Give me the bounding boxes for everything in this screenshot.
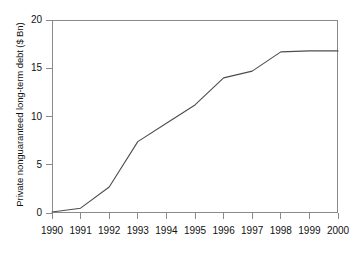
y-tick-mark	[46, 20, 52, 21]
x-tick-mark	[80, 213, 81, 219]
x-tick-mark	[223, 213, 224, 219]
x-tick-label: 2000	[315, 225, 361, 236]
x-tick-mark	[137, 213, 138, 219]
y-tick-label: 10	[0, 112, 42, 122]
x-tick-mark	[280, 213, 281, 219]
x-tick-mark	[309, 213, 310, 219]
y-tick-label: 20	[0, 15, 42, 25]
x-tick-mark	[166, 213, 167, 219]
x-tick-mark	[52, 213, 53, 219]
y-tick-label: 5	[0, 160, 42, 170]
plot-area	[52, 20, 338, 213]
x-tick-mark	[252, 213, 253, 219]
y-tick-mark	[46, 164, 52, 165]
y-tick-mark	[46, 68, 52, 69]
x-tick-mark	[195, 213, 196, 219]
x-tick-mark	[338, 213, 339, 219]
y-tick-label: 15	[0, 63, 42, 73]
x-tick-mark	[109, 213, 110, 219]
y-tick-label: 0	[0, 208, 42, 218]
chart-figure: Private nonguaranteed long-term debt ($ …	[0, 0, 361, 267]
y-tick-mark	[46, 116, 52, 117]
